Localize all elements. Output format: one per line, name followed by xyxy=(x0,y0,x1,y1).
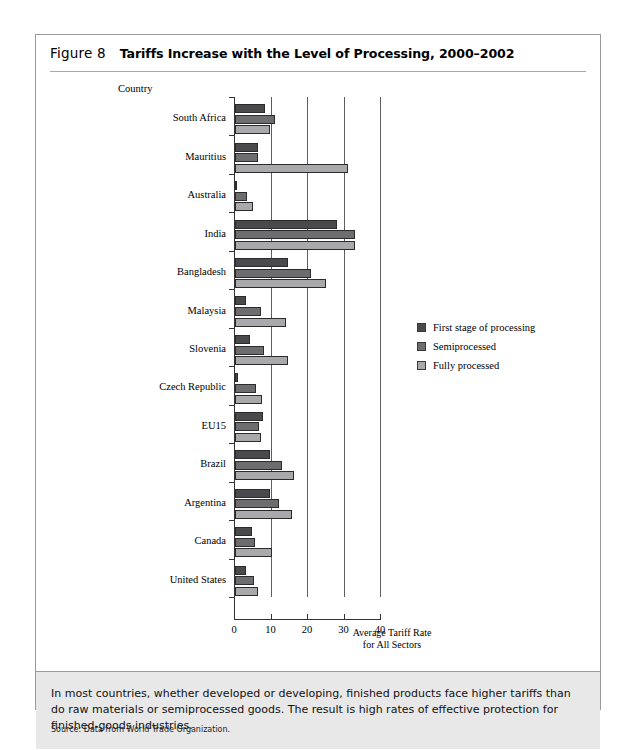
bar xyxy=(235,461,282,470)
x-tick-label-20: 20 xyxy=(292,624,322,635)
y-tick-0 xyxy=(229,97,234,98)
bar xyxy=(235,181,237,190)
bar xyxy=(235,412,263,421)
y-tick-3 xyxy=(229,212,234,213)
x-tick-label-10: 10 xyxy=(256,624,286,635)
bar xyxy=(235,104,265,113)
bar xyxy=(235,489,270,498)
bar xyxy=(235,220,337,229)
category-label: India xyxy=(204,228,226,239)
y-tick-1 xyxy=(229,135,234,136)
figure-title: Tariffs Increase with the Level of Proce… xyxy=(120,46,515,61)
x-axis-title-line-2: for All Sectors xyxy=(322,639,462,651)
bar xyxy=(235,192,247,201)
caption-band: In most countries, whether developed or … xyxy=(36,672,600,749)
category-label-column: South AfricaMauritiusAustraliaIndiaBangl… xyxy=(36,97,232,597)
x-tick-20 xyxy=(307,614,308,620)
x-tick-40 xyxy=(380,614,381,620)
bar xyxy=(235,125,270,134)
bar xyxy=(235,422,259,431)
legend-label: Fully processed xyxy=(433,360,499,371)
category-label: Czech Republic xyxy=(159,381,226,392)
y-tick-11 xyxy=(229,520,234,521)
bar xyxy=(235,143,258,152)
x-axis-title-line-1: Average Tariff Rate xyxy=(322,627,462,639)
legend-swatch-icon xyxy=(417,323,426,332)
y-tick-7 xyxy=(229,366,234,367)
chart-axes: 010203040 xyxy=(234,97,380,597)
y-tick-12 xyxy=(229,559,234,560)
bar xyxy=(235,153,258,162)
bar xyxy=(235,527,252,536)
bar xyxy=(235,335,250,344)
y-tick-5 xyxy=(229,289,234,290)
x-tick-10 xyxy=(271,614,272,620)
bar xyxy=(235,450,270,459)
category-label: Slovenia xyxy=(189,343,226,354)
bar xyxy=(235,395,262,404)
bar xyxy=(235,587,258,596)
y-tick-end xyxy=(229,597,234,598)
category-label: South Africa xyxy=(173,112,226,123)
y-tick-2 xyxy=(229,174,234,175)
caption-source: Source: Data from World Trade Organizati… xyxy=(51,724,585,735)
bar xyxy=(235,373,238,382)
legend-swatch-icon xyxy=(417,342,426,351)
category-label: Mauritius xyxy=(185,151,226,162)
legend-item: First stage of processing xyxy=(417,319,597,336)
bar xyxy=(235,384,256,393)
bar xyxy=(235,279,326,288)
figure-container: Figure 8 Tariffs Increase with the Level… xyxy=(35,34,601,710)
chart-legend: First stage of processingSemiprocessedFu… xyxy=(417,319,597,376)
bar xyxy=(235,576,254,585)
bar xyxy=(235,296,246,305)
category-label: Brazil xyxy=(200,458,226,469)
y-tick-9 xyxy=(229,443,234,444)
x-tick-0 xyxy=(234,614,235,620)
y-tick-10 xyxy=(229,482,234,483)
category-label: Canada xyxy=(195,535,227,546)
bar xyxy=(235,433,261,442)
bar xyxy=(235,499,279,508)
bar xyxy=(235,538,255,547)
legend-label: Semiprocessed xyxy=(433,341,496,352)
bar xyxy=(235,230,355,239)
legend-label: First stage of processing xyxy=(433,322,535,333)
category-label: United States xyxy=(170,574,226,585)
x-tick-30 xyxy=(344,614,345,620)
bar xyxy=(235,356,288,365)
bar xyxy=(235,241,355,250)
y-tick-8 xyxy=(229,405,234,406)
bar xyxy=(235,115,275,124)
category-label: Australia xyxy=(188,189,227,200)
bar xyxy=(235,318,286,327)
legend-swatch-icon xyxy=(417,361,426,370)
figure-number: Figure 8 xyxy=(50,45,106,61)
bar xyxy=(235,510,292,519)
bar xyxy=(235,548,272,557)
y-tick-4 xyxy=(229,251,234,252)
bar xyxy=(235,471,294,480)
legend-item: Fully processed xyxy=(417,357,597,374)
chart-plot-area: Country South AfricaMauritiusAustraliaIn… xyxy=(36,75,600,635)
category-label: Bangladesh xyxy=(177,266,226,277)
category-label: Malaysia xyxy=(188,305,227,316)
bar xyxy=(235,202,253,211)
gridline-40 xyxy=(380,97,381,597)
bar xyxy=(235,258,288,267)
bar xyxy=(235,164,348,173)
category-label: Argentina xyxy=(184,497,226,508)
y-axis-title: Country xyxy=(118,83,152,94)
bar xyxy=(235,307,261,316)
figure-title-row: Figure 8 Tariffs Increase with the Level… xyxy=(50,45,586,73)
bar xyxy=(235,269,311,278)
title-divider xyxy=(50,71,586,72)
y-tick-6 xyxy=(229,328,234,329)
category-label: EU15 xyxy=(202,420,227,431)
bar xyxy=(235,566,246,575)
x-tick-label-0: 0 xyxy=(219,624,249,635)
bar xyxy=(235,346,264,355)
legend-item: Semiprocessed xyxy=(417,338,597,355)
x-axis-title: Average Tariff Rate for All Sectors xyxy=(322,627,462,651)
